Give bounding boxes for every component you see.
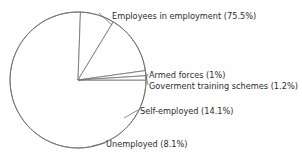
- pie-label-armed-forces: Armed forces (1%): [149, 70, 226, 80]
- pie-label-unemployed: Unemployed (8.1%): [106, 139, 188, 149]
- pie-chart-graphic: [0, 0, 302, 160]
- pie-label-employees-in-employment: Employees in employment (75.5%): [112, 11, 256, 21]
- pie-label-self-employed: Self-employed (14.1%): [140, 106, 233, 116]
- pie-chart-figure: Employees in employment (75.5%) Armed fo…: [0, 0, 302, 160]
- pie-label-goverment-training-schemes: Goverment training schemes (1.2%): [149, 81, 298, 91]
